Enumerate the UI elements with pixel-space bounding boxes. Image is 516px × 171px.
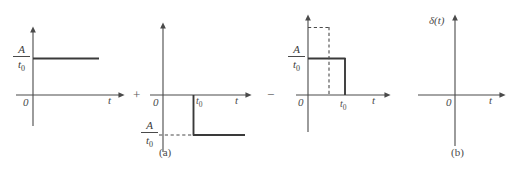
panel4-x-axis-label: t (489, 94, 492, 106)
panel3-y-label-numerator: A (288, 44, 305, 56)
panel2-level-denominator: t0 (141, 134, 158, 149)
operator-minus: − (267, 87, 274, 103)
panel3-x-axis-label: t (372, 94, 375, 106)
panel3-y-label-fraction-bar (288, 56, 305, 57)
panel3-origin-label: 0 (298, 96, 304, 108)
panel3-t0-label: t0 (340, 98, 347, 112)
caption-a: (a) (159, 146, 171, 158)
panel4-y-axis-label: δ(t) (429, 14, 445, 26)
panel2-level-numerator: A (141, 120, 158, 132)
panel-step-down-axes (150, 28, 246, 152)
panel4-origin-label: 0 (446, 96, 452, 108)
figure-container: A t0 0 t + 0 t0 t A t0 − A t0 0 t0 t δ(t… (0, 0, 516, 171)
panel2-level-label: A t0 (141, 120, 158, 149)
panel3-y-label-denominator: t0 (288, 58, 305, 73)
panel1-y-label-denominator: t0 (13, 58, 30, 73)
panel-step-up-axes (16, 32, 119, 126)
panel2-level-fraction-bar (141, 132, 158, 133)
panel-pulse-curve (308, 58, 346, 95)
panel1-origin-label: 0 (23, 96, 29, 108)
panel1-y-label-fraction-bar (13, 56, 30, 57)
panel-delta-axes (418, 20, 500, 146)
caption-b: (b) (451, 146, 464, 158)
panel1-x-axis-label: t (108, 94, 111, 106)
panel2-t0-label: t0 (196, 95, 203, 109)
panel-pulse-axes (296, 20, 385, 132)
panel-pulse-dashed-limit (308, 27, 330, 95)
panel1-y-axis-label: A t0 (13, 44, 30, 73)
panel1-y-label-numerator: A (13, 44, 30, 56)
operator-plus: + (133, 87, 140, 103)
panel3-y-axis-label: A t0 (288, 44, 305, 73)
panel2-origin-label: 0 (153, 96, 159, 108)
panel2-x-axis-label: t (235, 94, 238, 106)
